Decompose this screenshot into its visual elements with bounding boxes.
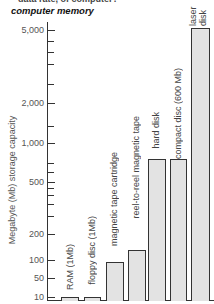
y-minor-tick (47, 172, 54, 173)
bar-label-reel-to-reel-magnetic-tape: reel-to-reel magnetic tape (131, 116, 141, 219)
y-tick (47, 278, 55, 279)
y-tick (47, 182, 55, 183)
y-axis-title: Megabyte (Mb) storage capacity (7, 116, 17, 245)
y-minor-tick (47, 195, 54, 196)
bar-label-magnetic-tape-cartridge: magnetic tape cartridge (109, 152, 119, 246)
chart-title: computer memory (11, 5, 94, 16)
y-minor-tick (47, 188, 54, 189)
bar-label-floppy-disc: floppy disc (1Mb) (87, 216, 97, 285)
bar-compact-disc (170, 159, 187, 301)
y-minor-tick (47, 84, 54, 85)
bar-label-ram: RAM (1Mb) (65, 244, 75, 290)
y-minor-tick (47, 126, 54, 127)
y-tick (47, 260, 55, 261)
bar-label-hard-disk: hard disk (151, 112, 161, 149)
bar-floppy-disc (84, 297, 101, 301)
y-tick-label: 200 (29, 229, 44, 239)
y-minor-tick (47, 163, 54, 164)
y-tick-label: 50 (34, 273, 44, 283)
y-tick (47, 143, 55, 144)
bar-ram (61, 297, 79, 301)
y-tick (47, 234, 55, 235)
y-minor-tick (47, 64, 54, 65)
y-tick (47, 103, 55, 104)
y-minor-tick (47, 204, 54, 205)
cut-off-heading-text: data rate, of computer? (18, 0, 118, 4)
y-tick (47, 30, 55, 31)
y-minor-tick (47, 52, 54, 53)
bar-magnetic-tape-cartridge (106, 262, 124, 301)
bar-reel-to-reel-magnetic-tape (128, 250, 146, 301)
y-tick-label: 500 (29, 177, 44, 187)
bar-hard-disk (148, 159, 166, 301)
bar-laser-disk (191, 28, 210, 301)
y-tick-label: 10 (34, 292, 44, 302)
y-tick (47, 297, 55, 298)
y-minor-tick (47, 41, 54, 42)
y-tick-label: 2,000 (21, 98, 44, 108)
y-minor-tick (47, 216, 54, 217)
bar-label-compact-disc: compact disc (600 Mb) (173, 68, 183, 159)
bar-label-laser-disk: laser disk (188, 2, 210, 26)
y-tick-label: 1,000 (21, 138, 44, 148)
y-tick-label: 100 (29, 255, 44, 265)
y-tick-label: 5,000 (21, 25, 44, 35)
